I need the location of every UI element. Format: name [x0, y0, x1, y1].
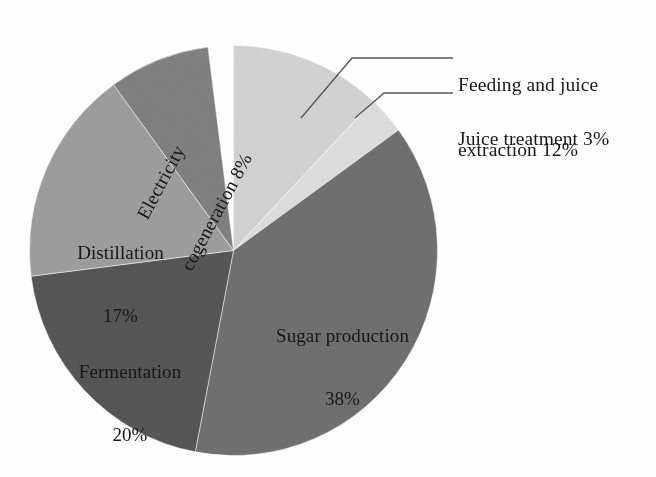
slice-label-line1: Electricity: [117, 113, 204, 251]
slice-label-juice-treatment: Juice treatment 3%: [458, 84, 653, 193]
slice-label-line2: 38%: [255, 388, 430, 409]
slice-label-line1: Juice treatment 3%: [458, 128, 653, 150]
slice-label-sugar-production: Sugar production 38%: [255, 282, 430, 452]
pie-chart-figure: Feeding and juice extraction 12% Juice t…: [0, 0, 656, 477]
slice-label-line2: cogeneration 8%: [173, 143, 260, 281]
slice-label-line2: 20%: [50, 424, 210, 445]
slice-label-line1: Sugar production: [255, 325, 430, 346]
slice-label-line2: 17%: [48, 305, 193, 326]
